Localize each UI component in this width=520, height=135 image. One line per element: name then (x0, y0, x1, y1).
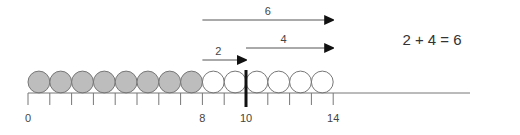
tick-labels: 081014 (25, 112, 339, 124)
counter-circle (224, 71, 246, 93)
counter-circle (202, 71, 224, 93)
counter-circle (159, 71, 181, 93)
jump-arrows: 624 (202, 5, 333, 60)
counters (28, 71, 333, 93)
arrow-label: 4 (281, 33, 287, 45)
tick-label: 0 (25, 112, 31, 124)
counter-circle (246, 71, 268, 93)
number-line-diagram: 081014 624 2 + 4 = 6 (0, 0, 520, 135)
counter-circle (115, 71, 137, 93)
equation-text: 2 + 4 = 6 (402, 31, 461, 48)
arrow-label: 2 (215, 45, 221, 57)
counter-circle (311, 71, 333, 93)
arrow-label: 6 (265, 5, 271, 17)
counter-circle (137, 71, 159, 93)
counter-circle (28, 71, 50, 93)
counter-circle (93, 71, 115, 93)
counter-circle (181, 71, 203, 93)
tick-label: 8 (199, 112, 205, 124)
counter-circle (268, 71, 290, 93)
tick-label: 14 (327, 112, 339, 124)
counter-circle (72, 71, 94, 93)
counter-circle (290, 71, 312, 93)
counter-circle (50, 71, 72, 93)
tick-label: 10 (240, 112, 252, 124)
ticks (28, 93, 333, 105)
